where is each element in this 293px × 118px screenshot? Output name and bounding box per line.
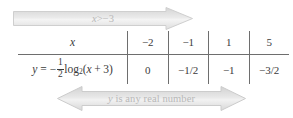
header-x-value-0: −2 <box>142 36 154 48</box>
range-arrow-banner: y is any real number <box>57 86 246 111</box>
log-function-table-figure: x>−3 x −2 −1 1 <box>0 0 293 118</box>
equation-close-paren: ) <box>109 63 113 75</box>
header-x-cell-0: −2 <box>128 31 169 55</box>
data-y-value-1: −1/2 <box>178 64 198 76</box>
header-variable-cell: x <box>18 31 128 55</box>
data-y-value-3: −3/2 <box>259 64 279 76</box>
function-equation: y = − 1 2 log2(x+3) <box>32 59 113 80</box>
value-table: x −2 −1 1 5 <box>18 31 285 83</box>
header-x-cell-1: −1 <box>168 31 209 55</box>
table-header-row: x −2 −1 1 5 <box>18 31 289 55</box>
header-x-value-3: 5 <box>267 36 273 48</box>
data-y-value-2: −1 <box>223 64 235 76</box>
header-variable-label: x <box>70 36 75 48</box>
header-x-value-2: 1 <box>226 36 232 48</box>
equation-plus: + <box>92 63 104 75</box>
header-x-cell-2: 1 <box>209 31 250 55</box>
fraction-denominator: 2 <box>57 70 64 80</box>
fraction-numerator: 1 <box>57 58 64 68</box>
equation-argument: (x+3) <box>83 64 113 76</box>
data-y-cell-0: 0 <box>128 55 169 85</box>
data-y-cell-3: −3/2 <box>249 55 289 85</box>
equation-minus-sign: − <box>50 64 57 76</box>
equation-lhs: y <box>32 64 37 76</box>
equation-log: log <box>64 64 79 76</box>
double-arrow-icon <box>57 86 246 111</box>
equation-cell: y = − 1 2 log2(x+3) <box>18 55 128 85</box>
domain-arrow-banner: x>−3 <box>13 7 193 30</box>
data-y-cell-2: −1 <box>209 55 250 85</box>
header-x-cell-3: 5 <box>249 31 289 55</box>
table-data-row: y = − 1 2 log2(x+3) 0 <box>18 55 289 85</box>
data-y-value-0: 0 <box>145 64 151 76</box>
equation-log-base: 2 <box>79 68 83 76</box>
equation-fraction-one-half: 1 2 <box>57 58 64 79</box>
single-right-arrow-icon <box>13 7 193 30</box>
equation-argument-variable: x <box>87 63 92 75</box>
data-y-cell-1: −1/2 <box>168 55 209 85</box>
table: x −2 −1 1 5 <box>18 31 289 84</box>
equation-equals: = <box>40 64 47 76</box>
header-x-value-1: −1 <box>182 36 194 48</box>
